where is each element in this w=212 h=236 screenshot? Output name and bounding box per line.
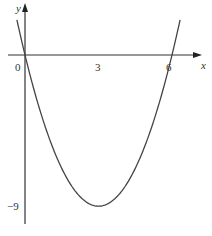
y-tick-neg9-label: −9 (7, 201, 19, 212)
origin-label: 0 (15, 62, 21, 73)
parabola-curve (17, 20, 180, 206)
x-tick-3-label: 3 (95, 62, 101, 73)
y-axis-arrow-icon (22, 3, 28, 12)
x-axis-arrow-icon (193, 52, 202, 58)
x-axis-label: x (201, 60, 206, 71)
x-tick-6-label: 6 (166, 62, 172, 73)
y-axis-label: y (16, 3, 21, 14)
parabola-plot (0, 0, 212, 236)
